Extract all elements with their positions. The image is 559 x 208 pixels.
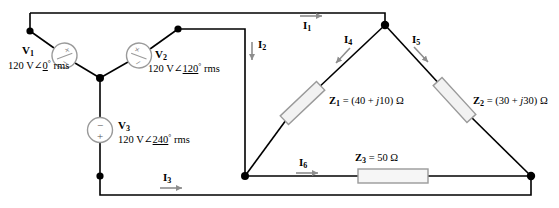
current-i6-label: I6	[299, 156, 307, 171]
v2-unit: rms	[204, 63, 220, 74]
v2-symbol-letter: V	[155, 48, 163, 60]
z1-subscript: 1	[336, 99, 340, 108]
wire-v1-branch-lower	[75, 63, 100, 78]
i2-subscript: 2	[262, 43, 266, 52]
z1-unit: Ω	[396, 95, 404, 106]
current-i1-label: I1	[303, 19, 311, 34]
impedance-z3-symbol	[358, 169, 428, 183]
z3-symbol-letter: Z	[355, 152, 362, 163]
v1-magnitude: 120 V	[8, 60, 34, 71]
z3-expression: 50 Ω	[377, 152, 398, 163]
source-v1-name: V1	[22, 44, 34, 59]
z2-subscript: 2	[480, 99, 484, 108]
z2-symbol-letter: Z	[473, 95, 480, 106]
voltage-source-v3-symbol: − +	[88, 118, 113, 143]
z3-real: 50	[377, 152, 388, 163]
v3-plus-sign: +	[97, 130, 103, 142]
v3-minus-sign: −	[97, 119, 103, 131]
node-dot-wye-center	[96, 74, 104, 82]
current-i3-label: I3	[163, 171, 171, 186]
z2-real: 30	[499, 95, 510, 106]
i6-subscript: 6	[303, 161, 307, 170]
z1-expression: (40 + j10) Ω	[351, 95, 404, 106]
impedance-z2-symbol	[433, 78, 476, 123]
current-i2-label: I2	[258, 38, 266, 53]
z3-equals: =	[369, 152, 375, 163]
v1-symbol-letter: V	[22, 44, 30, 56]
source-v3-name: V3	[118, 119, 130, 134]
v1-degree-sign: °	[48, 59, 51, 68]
node-dot-delta-bottom-right	[527, 172, 535, 180]
v2-angle: 120	[183, 63, 199, 74]
z1-equals: =	[343, 95, 349, 106]
i5-subscript: 5	[416, 38, 420, 47]
v2-magnitude: 120 V	[148, 63, 174, 74]
z1-box	[280, 81, 325, 124]
z3-subscript: 3	[362, 156, 366, 165]
circuit-diagram: + − + − − +	[0, 0, 559, 208]
v3-subscript: 3	[126, 124, 130, 133]
impedance-z1-symbol	[280, 81, 325, 124]
impedance-z1-label: Z1 = (40 + j10) Ω	[329, 95, 404, 109]
node-dot-c	[96, 172, 103, 179]
impedance-z3-label: Z3 = 50 Ω	[355, 152, 398, 166]
source-v2-name: V2	[155, 48, 167, 63]
v1-unit: rms	[53, 60, 69, 71]
wire-delta-right-lower	[466, 112, 531, 176]
source-v2-value: 120 V∠120° rms	[148, 63, 220, 75]
impedance-z2-label: Z2 = (30 + j30) Ω	[473, 95, 548, 109]
z2-equals: =	[487, 95, 493, 106]
z2-imag: 30	[523, 95, 534, 106]
i3-subscript: 3	[167, 176, 171, 185]
v3-degree-sign: °	[168, 133, 171, 142]
wire-v2-branch-lower	[100, 62, 128, 78]
z2-box	[433, 78, 476, 123]
wire-top-line1	[30, 13, 385, 25]
z1-imag: 10	[379, 95, 390, 106]
v1-subscript: 1	[30, 49, 34, 58]
current-i4-label: I4	[344, 33, 352, 48]
z2-unit: Ω	[540, 95, 548, 106]
wire-node-b-to-i2	[178, 29, 245, 176]
v2-degree-sign: °	[198, 62, 201, 71]
node-dot-delta-apex	[381, 21, 389, 29]
i4-subscript: 4	[348, 38, 352, 47]
current-i5-label: I5	[412, 33, 420, 48]
z1-symbol-letter: Z	[329, 95, 336, 106]
i1-subscript: 1	[307, 24, 311, 33]
wire-delta-left-lower	[245, 116, 289, 176]
v3-angle: 240	[153, 134, 169, 145]
wire-v2-branch-upper	[150, 29, 178, 49]
source-v3-value: 120 V∠240° rms	[118, 134, 190, 146]
z2-expression: (30 + j30) Ω	[495, 95, 548, 106]
z3-box	[358, 169, 428, 183]
source-v1-value: 120 V∠0° rms	[8, 60, 69, 72]
z1-real: 40	[355, 95, 366, 106]
v3-unit: rms	[174, 134, 190, 145]
node-dot-delta-bottom-left	[241, 172, 249, 180]
node-dot-b	[174, 25, 181, 32]
v2-subscript: 2	[163, 53, 167, 62]
z3-unit: Ω	[390, 152, 398, 163]
node-dot-a	[26, 27, 33, 34]
v3-symbol-letter: V	[118, 119, 126, 131]
v3-magnitude: 120 V	[118, 134, 144, 145]
